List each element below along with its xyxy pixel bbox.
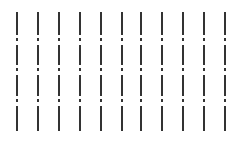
line-segment <box>58 12 60 35</box>
dash-segment <box>100 99 102 102</box>
dashed-vertical-line <box>58 0 60 141</box>
dashed-vertical-line <box>224 0 226 141</box>
line-segment <box>140 45 142 65</box>
dash-segment <box>224 38 226 41</box>
dash-segment <box>121 68 123 71</box>
line-segment <box>182 12 184 35</box>
dash-segment <box>37 99 39 102</box>
line-segment <box>16 106 18 131</box>
line-segment <box>182 106 184 131</box>
dash-segment <box>224 99 226 102</box>
dash-segment <box>161 68 163 71</box>
dash-segment <box>16 99 18 102</box>
dashed-vertical-line <box>16 0 18 141</box>
line-segment <box>16 75 18 96</box>
dash-segment <box>140 68 142 71</box>
line-segment <box>79 12 81 35</box>
dash-segment <box>79 99 81 102</box>
dashed-vertical-line <box>182 0 184 141</box>
dash-segment <box>100 68 102 71</box>
line-segment <box>100 106 102 131</box>
line-segment <box>79 75 81 96</box>
dash-segment <box>79 38 81 41</box>
line-segment <box>79 45 81 65</box>
line-segment <box>140 106 142 131</box>
line-segment <box>224 45 226 65</box>
dash-segment <box>203 38 205 41</box>
line-segment <box>37 75 39 96</box>
dash-segment <box>121 99 123 102</box>
dash-segment <box>182 38 184 41</box>
line-segment <box>58 106 60 131</box>
line-segment <box>161 12 163 35</box>
dashed-vertical-line <box>161 0 163 141</box>
line-segment <box>37 12 39 35</box>
line-segment <box>161 106 163 131</box>
dash-segment <box>203 68 205 71</box>
dash-segment <box>58 38 60 41</box>
dash-segment <box>37 38 39 41</box>
line-segment <box>182 45 184 65</box>
line-segment <box>100 75 102 96</box>
dash-segment <box>140 99 142 102</box>
dashed-vertical-line <box>121 0 123 141</box>
line-segment <box>203 106 205 131</box>
line-segment <box>161 45 163 65</box>
line-segment <box>58 45 60 65</box>
line-segment <box>16 12 18 35</box>
line-segment <box>100 12 102 35</box>
line-segment <box>224 106 226 131</box>
dashed-vertical-line <box>79 0 81 141</box>
dash-segment <box>140 38 142 41</box>
dash-segment <box>100 38 102 41</box>
dash-segment <box>224 68 226 71</box>
line-segment <box>100 45 102 65</box>
line-segment <box>121 106 123 131</box>
dash-segment <box>161 99 163 102</box>
dashed-vertical-line <box>100 0 102 141</box>
line-segment <box>58 75 60 96</box>
line-segment <box>203 45 205 65</box>
dashed-vertical-line-pattern <box>0 0 244 141</box>
line-segment <box>37 106 39 131</box>
line-segment <box>203 12 205 35</box>
line-segment <box>121 45 123 65</box>
dash-segment <box>16 38 18 41</box>
dash-segment <box>58 68 60 71</box>
dash-segment <box>79 68 81 71</box>
line-segment <box>79 106 81 131</box>
dash-segment <box>182 68 184 71</box>
line-segment <box>37 45 39 65</box>
line-segment <box>224 12 226 35</box>
dash-segment <box>121 38 123 41</box>
line-segment <box>182 75 184 96</box>
line-segment <box>224 75 226 96</box>
dash-segment <box>16 68 18 71</box>
line-segment <box>121 75 123 96</box>
dashed-vertical-line <box>37 0 39 141</box>
dashed-vertical-line <box>203 0 205 141</box>
dash-segment <box>161 38 163 41</box>
dash-segment <box>37 68 39 71</box>
line-segment <box>140 75 142 96</box>
dash-segment <box>182 99 184 102</box>
dash-segment <box>58 99 60 102</box>
dash-segment <box>203 99 205 102</box>
line-segment <box>161 75 163 96</box>
dashed-vertical-line <box>140 0 142 141</box>
line-segment <box>203 75 205 96</box>
line-segment <box>16 45 18 65</box>
line-segment <box>140 12 142 35</box>
line-segment <box>121 12 123 35</box>
